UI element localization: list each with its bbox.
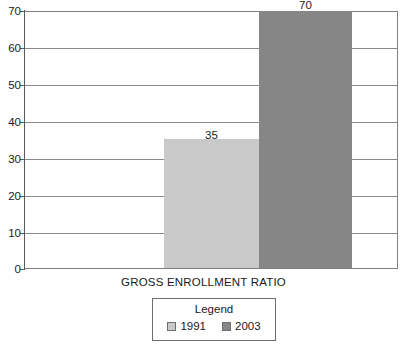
y-axis-label-30: 30 [0,154,21,166]
legend-swatch-2003-icon [222,322,231,331]
legend: Legend 1991 2003 [152,298,276,341]
y-axis-line [24,10,25,270]
y-axis-label-60: 60 [0,43,21,55]
legend-swatch-1991-icon [167,322,176,331]
y-axis-label-20: 20 [0,191,21,203]
legend-title: Legend [153,303,275,316]
legend-label-2003: 2003 [235,321,261,333]
y-axis-label-10: 10 [0,228,21,240]
legend-item-2003[interactable]: 2003 [222,321,261,333]
x-axis-title: GROSS ENROLLMENT RATIO [0,276,407,289]
legend-item-1991[interactable]: 1991 [167,321,206,333]
y-axis-label-0: 0 [0,264,21,276]
bar-value-1991: 35 [164,130,259,142]
legend-label-1991: 1991 [180,321,206,333]
bar-1991[interactable] [164,139,259,268]
y-axis-label-70: 70 [0,6,21,18]
bar-value-2003: 70 [259,0,352,12]
y-axis-label-50: 50 [0,80,21,92]
y-axis-label-40: 40 [0,117,21,129]
bar-chart: 70 60 50 40 30 20 10 0 35 70 GROSS ENROL… [0,0,407,346]
bar-2003[interactable] [259,11,352,268]
legend-items: 1991 2003 [153,321,275,333]
